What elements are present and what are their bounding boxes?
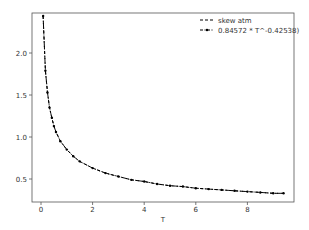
- x-tick-label: 4: [142, 206, 147, 214]
- data-point-marker: [79, 160, 81, 162]
- data-point-marker: [272, 192, 274, 194]
- data-point-marker: [53, 125, 55, 127]
- chart: 0.51.01.52.0 02468 T skew atm 0.84572 * …: [0, 0, 309, 230]
- legend-label-fit: 0.84572 * T^-0.42538): [218, 27, 300, 35]
- y-tick-label: 0.5: [16, 176, 27, 184]
- data-point-marker: [233, 190, 235, 192]
- data-point-marker: [44, 69, 46, 71]
- data-point-marker: [66, 148, 68, 150]
- data-point-marker: [42, 15, 44, 17]
- data-point-marker: [72, 155, 74, 157]
- plot-area: [32, 13, 294, 202]
- data-point-marker: [182, 185, 184, 187]
- data-point-marker: [117, 175, 119, 177]
- x-axis-label: T: [160, 216, 166, 224]
- x-tick-label: 8: [245, 206, 249, 214]
- data-point-marker: [246, 190, 248, 192]
- data-point-marker: [91, 167, 93, 169]
- data-point-marker: [104, 172, 106, 174]
- x-tick-label: 0: [39, 206, 43, 214]
- data-point-marker: [130, 179, 132, 181]
- data-point-marker: [55, 131, 57, 133]
- data-point-marker: [51, 116, 53, 118]
- x-tick-label: 6: [194, 206, 199, 214]
- data-point-marker: [156, 183, 158, 185]
- data-point-marker: [259, 191, 261, 193]
- legend-label-skew: skew atm: [218, 17, 252, 25]
- data-point-marker: [282, 192, 284, 194]
- data-point-marker: [169, 185, 171, 187]
- y-axis: 0.51.01.52.0: [16, 50, 32, 184]
- data-point-marker: [46, 91, 48, 93]
- data-point-marker: [220, 189, 222, 191]
- data-point-marker: [48, 106, 50, 108]
- data-point-marker: [195, 187, 197, 189]
- data-point-marker: [59, 140, 61, 142]
- x-axis: 02468: [39, 202, 250, 214]
- legend-marker-fit: [206, 29, 209, 32]
- x-tick-label: 2: [90, 206, 94, 214]
- y-tick-label: 1.5: [16, 92, 27, 100]
- data-point-marker: [143, 180, 145, 182]
- data-point-marker: [208, 188, 210, 190]
- y-tick-label: 2.0: [16, 50, 27, 58]
- y-tick-label: 1.0: [16, 134, 27, 142]
